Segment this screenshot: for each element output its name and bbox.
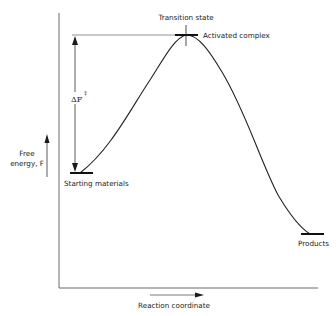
y-axis-label-line1: Free — [19, 149, 35, 158]
x-axis-label: Reaction coordinate — [138, 301, 210, 310]
products-label: Products — [298, 239, 329, 248]
y-axis-label-line2: energy, F — [10, 159, 44, 168]
activated-complex-label: Activated complex — [203, 31, 271, 40]
activation-energy-arrow-bottom-icon — [72, 163, 78, 172]
activation-energy-arrow-top-icon — [72, 36, 78, 45]
reaction-coordinate-arrow-head-icon — [195, 293, 204, 298]
transition-state-label: Transition state — [157, 13, 214, 22]
free-energy-arrow-head-icon — [45, 134, 50, 143]
energy-diagram: Transition state Activated complex Start… — [0, 0, 336, 316]
activation-energy-label: ΔF — [71, 95, 83, 104]
reaction-energy-curve — [80, 35, 310, 234]
activation-energy-superscript: ‡ — [84, 89, 87, 96]
starting-materials-label: Starting materials — [64, 179, 129, 188]
